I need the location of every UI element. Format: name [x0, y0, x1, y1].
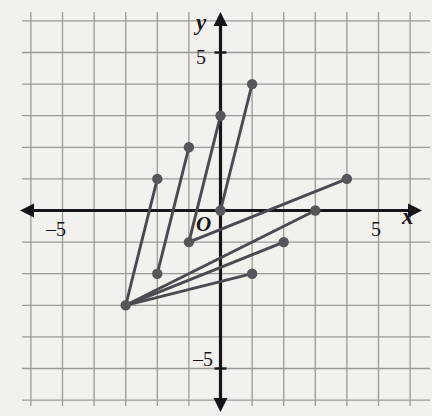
data-point — [310, 205, 320, 215]
data-point — [184, 142, 194, 152]
data-point — [279, 237, 289, 247]
data-point — [247, 269, 257, 279]
data-points — [121, 79, 353, 311]
y-axis-tick-negative: –5 — [193, 348, 213, 371]
origin-label: O — [196, 212, 211, 237]
data-point — [215, 111, 225, 121]
x-axis-arrow-left — [20, 204, 34, 218]
data-point — [342, 174, 352, 184]
y-axis-arrow-down — [214, 398, 228, 412]
x-axis-label: x — [402, 204, 414, 230]
y-axis-label: y — [196, 10, 206, 36]
data-point — [121, 300, 131, 310]
data-point — [247, 79, 257, 89]
data-point — [152, 269, 162, 279]
coordinate-plane-figure: y x O 5 –5 5 –5 — [0, 0, 432, 416]
x-axis-tick-positive: 5 — [371, 218, 381, 241]
graph-canvas — [0, 0, 432, 416]
data-point — [152, 174, 162, 184]
data-point — [184, 237, 194, 247]
data-point — [215, 205, 225, 215]
y-axis-tick-positive: 5 — [196, 46, 206, 69]
y-axis-arrow-up — [214, 12, 228, 26]
x-axis-tick-negative: –5 — [46, 218, 66, 241]
